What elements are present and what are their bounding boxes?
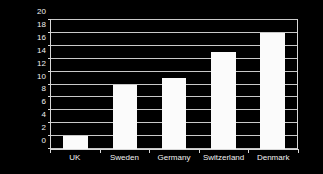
x-axis-tick: [149, 149, 150, 153]
y-axis-tick-label: 20: [37, 8, 46, 16]
y-axis-tick-label: 4: [42, 111, 46, 119]
x-axis-category-label: UK: [50, 154, 100, 162]
x-axis-tick: [298, 149, 299, 153]
y-axis-tick-label: 10: [37, 73, 46, 81]
bar-band: [149, 20, 198, 149]
plot-area: 02468101214161820: [50, 19, 298, 150]
bar-band: [199, 20, 248, 149]
x-axis-category-label: Germany: [149, 154, 199, 162]
bar[interactable]: [162, 78, 187, 149]
y-axis-tick-label: 12: [37, 60, 46, 68]
x-axis-tick: [248, 149, 249, 153]
bar-chart-figure: Percentage 02468101214161820 UKSwedenGer…: [0, 0, 323, 174]
x-axis-category-label: Switzerland: [199, 154, 249, 162]
bar[interactable]: [260, 33, 285, 149]
y-axis-tick-label: 16: [37, 34, 46, 42]
y-axis-tick-label: 0: [42, 137, 46, 145]
bar-band: [248, 20, 297, 149]
bar[interactable]: [211, 52, 236, 149]
x-axis-tick: [50, 149, 51, 153]
y-axis-tick-label: 2: [42, 124, 46, 132]
bar-band: [100, 20, 149, 149]
y-axis-tick-label: 8: [42, 85, 46, 93]
bar[interactable]: [113, 85, 138, 150]
bar[interactable]: [63, 136, 88, 149]
bars-group: [51, 20, 297, 149]
y-axis-tick-label: 18: [37, 21, 46, 29]
x-axis-category-label: Sweden: [100, 154, 150, 162]
x-axis-labels: UKSwedenGermanySwitzerlandDenmark: [50, 154, 298, 162]
x-axis-category-label: Denmark: [248, 154, 298, 162]
bar-band: [51, 20, 100, 149]
x-axis-tick: [100, 149, 101, 153]
x-axis-tick: [199, 149, 200, 153]
y-axis-tick-label: 14: [37, 47, 46, 55]
y-axis-tick-label: 6: [42, 98, 46, 106]
